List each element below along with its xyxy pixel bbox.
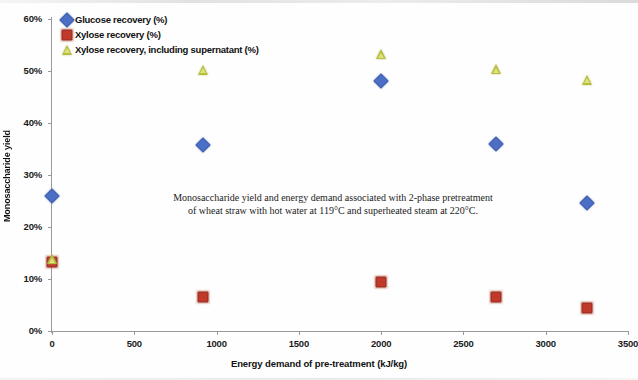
x-axis-tick: 0 xyxy=(52,331,53,335)
x-axis-tick-label: 1500 xyxy=(289,338,309,349)
data-point-diamond xyxy=(373,74,389,90)
x-axis-tick: 3000 xyxy=(546,331,547,335)
x-axis-tick-label: 500 xyxy=(127,338,142,349)
x-axis-tick-label: 1000 xyxy=(206,338,226,349)
data-point-square xyxy=(376,276,387,287)
legend-square-icon xyxy=(62,29,72,41)
legend-diamond-icon xyxy=(62,14,72,26)
y-axis-tick: 20% xyxy=(48,227,52,228)
legend-item[interactable]: Xylose recovery (%) xyxy=(62,27,259,42)
x-axis-tick-label: 2000 xyxy=(371,338,391,349)
x-axis-tick-label: 3000 xyxy=(536,338,556,349)
plot-area: 0%10%20%30%40%50%60%05001000150020002500… xyxy=(52,19,628,331)
x-axis-tick: 500 xyxy=(134,331,135,335)
y-axis-tick-label: 30% xyxy=(24,169,42,180)
legend-triangle-icon xyxy=(62,44,72,56)
data-point-triangle xyxy=(47,254,57,264)
x-axis-line xyxy=(51,331,629,332)
x-axis-tick-label: 0 xyxy=(49,338,54,349)
x-axis-tick: 3500 xyxy=(628,331,629,335)
legend-item-label: Xylose recovery (%) xyxy=(75,29,161,40)
data-point-square xyxy=(491,292,502,303)
chart-legend: Glucose recovery (%)Xylose recovery (%)X… xyxy=(62,12,259,57)
legend-item-label: Xylose recovery, including supernatant (… xyxy=(75,44,259,55)
x-axis-tick-label: 3500 xyxy=(618,338,638,349)
data-point-triangle xyxy=(491,64,501,74)
data-point-diamond xyxy=(489,136,505,152)
y-axis-tick-label: 10% xyxy=(24,273,42,284)
data-point-triangle xyxy=(198,65,208,75)
scan-artifact-top xyxy=(0,0,638,3)
legend-item[interactable]: Xylose recovery, including supernatant (… xyxy=(62,42,259,57)
data-point-square xyxy=(581,302,592,313)
data-point-square xyxy=(198,292,209,303)
y-axis-tick-label: 20% xyxy=(24,221,42,232)
y-axis-tick: 60% xyxy=(48,19,52,20)
y-axis-tick-label: 60% xyxy=(24,13,42,24)
x-axis-tick: 2500 xyxy=(463,331,464,335)
x-axis-title: Energy demand of pre-treatment (kJ/kg) xyxy=(0,358,638,369)
x-axis-tick-label: 2500 xyxy=(453,338,473,349)
y-axis-tick: 50% xyxy=(48,71,52,72)
data-point-diamond xyxy=(579,195,595,211)
scatter-chart: Monosaccharide yield 0%10%20%30%40%50%60… xyxy=(0,0,638,380)
y-axis-tick-label: 40% xyxy=(24,117,42,128)
x-axis-tick: 1500 xyxy=(299,331,300,335)
data-point-diamond xyxy=(196,137,212,153)
chart-annotation: Monosaccharide yield and energy demand a… xyxy=(143,192,523,217)
data-point-triangle xyxy=(582,75,592,85)
y-axis-tick: 30% xyxy=(48,175,52,176)
y-axis-tick: 40% xyxy=(48,123,52,124)
y-axis-title: Monosaccharide yield xyxy=(2,130,12,222)
annotation-line-2: of wheat straw with hot water at 119°C a… xyxy=(143,205,523,218)
y-axis-tick-label: 0% xyxy=(29,325,42,336)
legend-item[interactable]: Glucose recovery (%) xyxy=(62,12,259,27)
data-point-diamond xyxy=(44,188,60,204)
data-point-triangle xyxy=(376,49,386,59)
y-axis-tick-label: 50% xyxy=(24,65,42,76)
x-axis-tick: 2000 xyxy=(381,331,382,335)
legend-item-label: Glucose recovery (%) xyxy=(75,14,167,25)
annotation-line-1: Monosaccharide yield and energy demand a… xyxy=(143,192,523,205)
y-axis-tick: 10% xyxy=(48,279,52,280)
x-axis-tick: 1000 xyxy=(217,331,218,335)
